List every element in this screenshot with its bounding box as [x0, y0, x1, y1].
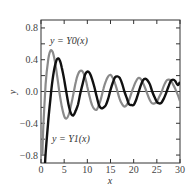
x-tick-label: 15	[106, 164, 116, 175]
x-axis-label: x	[107, 175, 113, 186]
y-tick-label: −0.4	[20, 118, 38, 129]
y-tick-label: 0.0	[26, 86, 39, 97]
y-tick-label: 0.4	[26, 54, 39, 65]
x-tick-label: 20	[129, 164, 139, 175]
x-tick-label: 5	[62, 164, 67, 175]
bessel-chart: y 0510152025300.80.40.0−0.4−0.8 x y = Y0…	[0, 0, 194, 195]
x-tick-label: 25	[152, 164, 162, 175]
y-axis-label-group: y	[7, 89, 18, 95]
x-tick-label: 30	[175, 164, 185, 175]
x-tick-label: 10	[82, 164, 92, 175]
y-tick-label: −0.8	[20, 150, 38, 161]
x-tick-label: 0	[39, 164, 44, 175]
y0-curve-annotation: y = Y0(x)	[49, 35, 89, 47]
y-axis-label: y	[7, 89, 18, 95]
curves	[42, 50, 180, 179]
y-tick-label: 0.8	[26, 22, 39, 33]
y1-curve-annotation: y = Y1(x)	[51, 133, 91, 145]
